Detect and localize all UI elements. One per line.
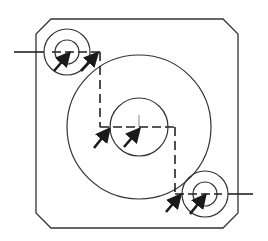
section-drawing xyxy=(0,0,268,241)
arrow-icon xyxy=(124,133,136,147)
arrow-icon xyxy=(81,57,94,71)
plate-outline xyxy=(36,19,238,228)
arrow-icon xyxy=(94,133,106,148)
section-line xyxy=(14,52,253,194)
view-arrows xyxy=(54,57,202,214)
arrow-icon xyxy=(166,199,177,212)
